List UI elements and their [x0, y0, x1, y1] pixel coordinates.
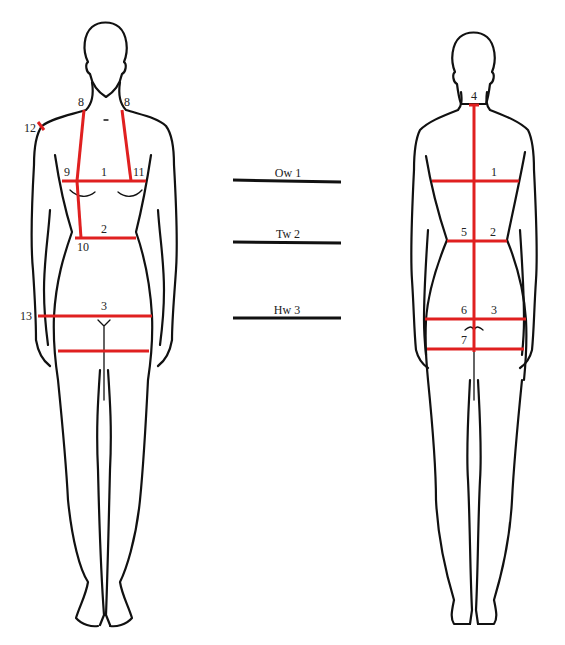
- back-label-5: 5: [461, 225, 467, 239]
- back-label-6: 6: [461, 303, 467, 317]
- back-label-7: 7: [461, 333, 467, 347]
- back-right-leg-outer: [478, 380, 522, 624]
- front-line-8-11: [122, 110, 131, 181]
- legend-label-hw3: Hw 3: [274, 303, 300, 317]
- front-bust-right-curve: [118, 190, 142, 196]
- back-left-leg-outer: [428, 380, 470, 624]
- front-right-leg-inner: [106, 370, 111, 625]
- front-label-11: 11: [133, 165, 145, 179]
- back-neck-left: [414, 92, 462, 170]
- measurement-diagram: 8 8 12 9 1 11 2 10 3 13 Ow 1 Tw 2 Hw 3: [0, 0, 565, 645]
- front-line-9-10: [77, 181, 81, 238]
- back-label-4: 4: [471, 89, 477, 103]
- front-left-leg-inner: [97, 370, 104, 625]
- front-bust-left-curve: [70, 190, 95, 196]
- front-figure: 8 8 12 9 1 11 2 10 3 13: [20, 23, 177, 627]
- back-neck-right: [486, 92, 534, 170]
- back-torso-left: [426, 156, 447, 380]
- back-figure: 4 1 5 2 6 3 7: [411, 33, 537, 625]
- legend: Ow 1 Tw 2 Hw 3: [233, 166, 341, 318]
- front-label-8-left: 8: [78, 95, 84, 109]
- legend-label-ow1: Ow 1: [275, 166, 301, 180]
- legend-line-ow1: [233, 180, 341, 182]
- front-measurements: [38, 110, 152, 351]
- back-left-leg-inner: [467, 380, 472, 624]
- front-label-2: 2: [101, 222, 107, 236]
- front-right-arm-inner: [158, 210, 164, 345]
- front-label-13: 13: [20, 309, 32, 323]
- front-label-1: 1: [101, 165, 107, 179]
- legend-line-tw2: [233, 242, 341, 243]
- front-label-10: 10: [77, 240, 89, 254]
- legend-label-tw2: Tw 2: [276, 227, 300, 241]
- front-left-arm-inner: [44, 210, 50, 345]
- front-left-leg-outer: [58, 380, 98, 626]
- back-label-2: 2: [490, 225, 496, 239]
- front-label-3: 3: [101, 299, 107, 313]
- front-right-leg-outer: [110, 380, 148, 626]
- back-measurements: [425, 105, 526, 352]
- front-torso-left: [54, 155, 72, 380]
- front-label-8-right: 8: [124, 95, 130, 109]
- back-label-1: 1: [491, 165, 497, 179]
- front-label-12: 12: [24, 121, 36, 135]
- back-right-leg-inner: [476, 380, 481, 624]
- front-label-9: 9: [64, 165, 70, 179]
- front-torso-right: [136, 155, 152, 380]
- front-line-8-9: [77, 110, 84, 181]
- back-label-3: 3: [491, 303, 497, 317]
